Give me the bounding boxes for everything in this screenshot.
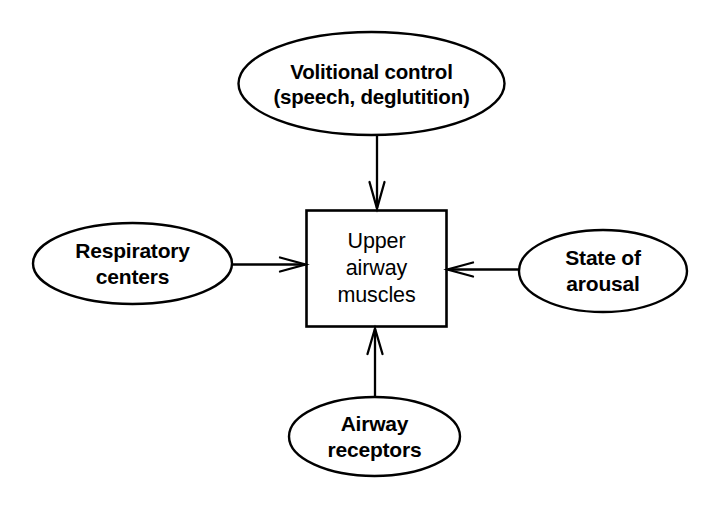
node-shape-airway-receptors[interactable]	[289, 397, 460, 476]
edge-arousal-to-box	[448, 263, 521, 277]
edge-respiratory-to-box	[231, 258, 306, 272]
node-shape-upper-airway-muscles[interactable]	[307, 211, 447, 327]
diagram-graphics	[0, 0, 704, 506]
edge-volitional-to-box	[370, 135, 385, 209]
edge-receptors-to-box	[368, 329, 383, 399]
node-shape-volitional-control[interactable]	[239, 32, 505, 135]
diagram-canvas: Volitional control (speech, deglutition)…	[0, 0, 704, 506]
node-shape-state-of-arousal[interactable]	[519, 230, 687, 312]
node-shape-respiratory-centers[interactable]	[33, 223, 232, 304]
